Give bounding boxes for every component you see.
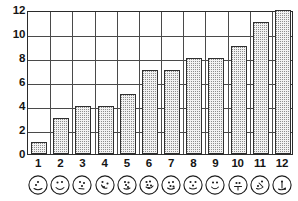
plot-area xyxy=(27,11,293,155)
die-face-1-icon xyxy=(27,173,49,197)
x-axis-tick-label: 7 xyxy=(160,157,182,170)
x-axis-tick-label: 1 xyxy=(27,157,49,170)
x-axis-tick-label: 11 xyxy=(249,157,271,170)
bar xyxy=(120,94,136,154)
die-face-12-icon xyxy=(271,173,293,197)
x-axis-tick-label: 2 xyxy=(49,157,71,170)
die-face-6-icon xyxy=(138,173,160,197)
y-axis-tick-label: 4 xyxy=(3,101,25,113)
x-axis-tick-label: 10 xyxy=(227,157,249,170)
y-axis-tick-label: 10 xyxy=(3,29,25,41)
bar-series xyxy=(28,12,292,154)
bar xyxy=(98,106,114,154)
die-face-9-icon xyxy=(204,173,226,197)
die-face-8-icon xyxy=(182,173,204,197)
bar-chart: 121086420 123456789101112 xyxy=(0,0,298,201)
die-face-2-icon xyxy=(49,173,71,197)
die-face-5-icon xyxy=(116,173,138,197)
bar xyxy=(208,58,224,154)
bar xyxy=(164,70,180,154)
die-face-4-icon xyxy=(94,173,116,197)
bar xyxy=(53,118,69,154)
y-axis-tick-label: 12 xyxy=(3,5,25,17)
x-axis-tick-label: 8 xyxy=(182,157,204,170)
y-axis: 121086420 xyxy=(0,0,25,201)
die-face-10-icon xyxy=(227,173,249,197)
x-axis-tick-label: 9 xyxy=(204,157,226,170)
x-axis: 123456789101112 xyxy=(27,157,293,172)
bar xyxy=(142,70,158,154)
x-axis-tick-label: 3 xyxy=(71,157,93,170)
bar xyxy=(275,10,291,154)
die-face-3-icon xyxy=(71,173,93,197)
y-axis-tick-label: 0 xyxy=(3,149,25,161)
bar xyxy=(231,46,247,154)
x-axis-tick-label: 5 xyxy=(116,157,138,170)
y-axis-tick-label: 2 xyxy=(3,125,25,137)
x-axis-icon-row xyxy=(27,173,293,199)
x-axis-tick-label: 6 xyxy=(138,157,160,170)
bar xyxy=(186,58,202,154)
y-axis-tick-label: 6 xyxy=(3,77,25,89)
x-axis-tick-label: 12 xyxy=(271,157,293,170)
y-axis-tick-label: 8 xyxy=(3,53,25,65)
die-face-11-icon xyxy=(249,173,271,197)
bar xyxy=(253,22,269,154)
bar xyxy=(75,106,91,154)
die-face-7-icon xyxy=(160,173,182,197)
x-axis-tick-label: 4 xyxy=(94,157,116,170)
bar xyxy=(31,142,47,154)
